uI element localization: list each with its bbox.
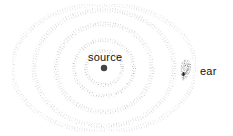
ear-label: ear xyxy=(200,66,217,77)
source-label: source xyxy=(88,52,122,63)
diagram-canvas xyxy=(0,0,233,136)
source-dot-icon xyxy=(101,65,107,71)
ear-icon xyxy=(181,60,192,81)
sound-propagation-diagram: source ear xyxy=(0,0,233,136)
